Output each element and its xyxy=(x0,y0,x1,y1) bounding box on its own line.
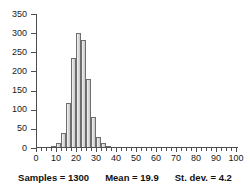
histogram-chart: 050100150200250300350 010203040506070809… xyxy=(0,0,250,196)
y-axis-tick-label: 100 xyxy=(0,105,27,114)
x-axis-minor-tick xyxy=(231,148,232,151)
y-axis-tick xyxy=(31,91,36,92)
x-axis-minor-tick xyxy=(221,148,222,151)
y-axis-tick-label: 50 xyxy=(0,124,27,133)
x-axis-minor-tick xyxy=(161,148,162,151)
x-axis-minor-tick xyxy=(141,148,142,151)
samples-stat: Samples = 1300 xyxy=(18,172,89,183)
x-axis-minor-tick xyxy=(206,148,207,151)
y-axis-tick xyxy=(31,52,36,53)
x-axis-minor-tick xyxy=(86,148,87,151)
x-axis-minor-tick xyxy=(46,148,47,151)
x-axis-major-tick xyxy=(36,148,37,152)
y-axis-line xyxy=(36,14,37,148)
x-axis-minor-tick xyxy=(146,148,147,151)
x-axis-major-tick xyxy=(76,148,77,152)
y-axis-tick xyxy=(31,110,36,111)
y-axis-tick-label: 300 xyxy=(0,29,27,38)
y-axis-tick-label: 0 xyxy=(0,144,27,153)
x-axis-major-tick xyxy=(156,148,157,152)
x-axis-minor-tick xyxy=(226,148,227,151)
x-axis-minor-tick xyxy=(211,148,212,151)
x-axis-major-tick xyxy=(236,148,237,152)
plot-area xyxy=(36,14,236,148)
y-axis-tick xyxy=(31,33,36,34)
x-axis-minor-tick xyxy=(61,148,62,151)
x-axis-minor-tick xyxy=(121,148,122,151)
y-axis-tick xyxy=(31,14,36,15)
x-axis-minor-tick xyxy=(51,148,52,151)
x-axis-minor-tick xyxy=(111,148,112,151)
x-axis-minor-tick xyxy=(91,148,92,151)
x-axis-minor-tick xyxy=(201,148,202,151)
x-axis-major-tick xyxy=(136,148,137,152)
x-axis-major-tick xyxy=(196,148,197,152)
x-axis-minor-tick xyxy=(126,148,127,151)
x-axis-minor-tick xyxy=(106,148,107,151)
x-axis-minor-tick xyxy=(186,148,187,151)
x-axis-minor-tick xyxy=(71,148,72,151)
x-axis-minor-tick xyxy=(171,148,172,151)
x-axis-major-tick xyxy=(56,148,57,152)
y-axis-tick xyxy=(31,129,36,130)
x-axis-minor-tick xyxy=(131,148,132,151)
x-axis-minor-tick xyxy=(41,148,42,151)
y-axis-tick-label: 200 xyxy=(0,67,27,76)
y-axis-tick-label: 250 xyxy=(0,48,27,57)
mean-stat: Mean = 19.9 xyxy=(105,172,159,183)
x-axis-major-tick xyxy=(96,148,97,152)
x-axis-major-tick xyxy=(216,148,217,152)
y-axis-tick-label: 350 xyxy=(0,10,27,19)
x-axis-minor-tick xyxy=(181,148,182,151)
statistics-row: Samples = 1300 Mean = 19.9 St. dev. = 4.… xyxy=(0,172,250,183)
x-axis-minor-tick xyxy=(151,148,152,151)
x-axis-major-tick xyxy=(176,148,177,152)
x-axis-tick-label: 100 xyxy=(224,154,248,163)
x-axis-minor-tick xyxy=(101,148,102,151)
x-axis-minor-tick xyxy=(66,148,67,151)
y-axis-tick-label: 150 xyxy=(0,86,27,95)
histogram-bars xyxy=(36,14,236,148)
y-axis-tick xyxy=(31,71,36,72)
stdev-stat: St. dev. = 4.2 xyxy=(175,172,232,183)
x-axis-minor-tick xyxy=(191,148,192,151)
x-axis-minor-tick xyxy=(166,148,167,151)
x-axis-minor-tick xyxy=(81,148,82,151)
x-axis-major-tick xyxy=(116,148,117,152)
